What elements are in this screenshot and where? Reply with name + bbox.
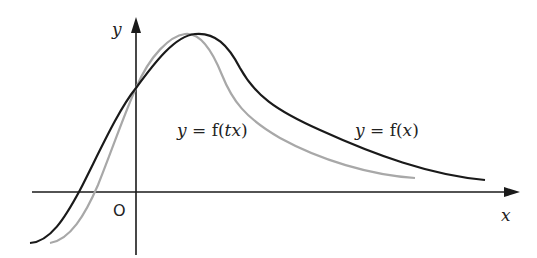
label-f-tx: y = f(tx) [176, 120, 248, 140]
label-f-x: y = f(x) [354, 120, 419, 140]
x-axis-label: x [501, 205, 511, 225]
y-axis-label: y [111, 19, 122, 39]
y-axis-arrow-icon [131, 17, 141, 33]
x-axis-arrow-icon [504, 187, 520, 197]
graph-diagram: y x O y = f(tx) y = f(x) [0, 0, 537, 258]
origin-label: O [113, 201, 126, 220]
